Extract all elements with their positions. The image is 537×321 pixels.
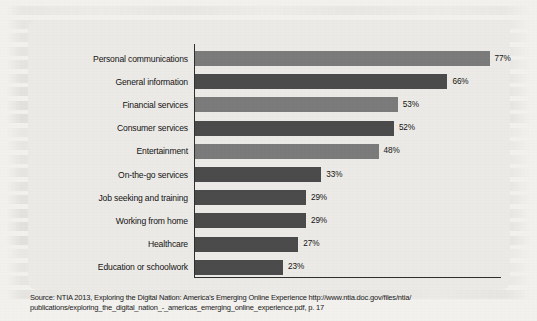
bar-chart-plot-area: Personal communications77%General inform… xyxy=(28,20,510,290)
figure-panel: Personal communications77%General inform… xyxy=(28,20,510,290)
bar-value-label: 23% xyxy=(288,262,304,272)
bar-category-label: General information xyxy=(28,77,188,87)
bleedthrough-text-line xyxy=(6,6,531,15)
bar xyxy=(195,144,379,159)
bar-category-label: Personal communications xyxy=(28,54,188,64)
bar-value-label: 77% xyxy=(495,54,511,64)
bar-row: Healthcare27% xyxy=(28,233,510,256)
bar-category-label: Working from home xyxy=(28,216,188,226)
bar-category-label: Entertainment xyxy=(28,146,188,156)
bar-row: Education or schoolwork23% xyxy=(28,256,510,279)
bar xyxy=(195,190,306,205)
source-citation-line-1: Source: NTIA 2013, Exploring the Digital… xyxy=(30,293,500,303)
bar xyxy=(195,121,394,136)
bar xyxy=(195,74,447,89)
bar-value-label: 27% xyxy=(303,239,319,249)
bar-row: Job seeking and training29% xyxy=(28,186,510,209)
bar xyxy=(195,213,306,228)
bar xyxy=(195,167,321,182)
bar-value-label: 29% xyxy=(311,193,327,203)
bar-row: Personal communications77% xyxy=(28,47,510,70)
bar xyxy=(195,97,398,112)
bar xyxy=(195,51,490,66)
bar-row: Financial services53% xyxy=(28,93,510,116)
bar-value-label: 29% xyxy=(311,216,327,226)
source-citation-line-2: publications/exploring_the_digital_natio… xyxy=(30,303,500,313)
source-citation: Source: NTIA 2013, Exploring the Digital… xyxy=(30,293,500,313)
bar-value-label: 53% xyxy=(403,100,419,110)
bar-row: On-the-go services33% xyxy=(28,163,510,186)
bar-value-label: 52% xyxy=(399,123,415,133)
bar-category-label: On-the-go services xyxy=(28,170,188,180)
bar xyxy=(195,237,298,252)
bar-row: Working from home29% xyxy=(28,209,510,232)
bar-category-label: Healthcare xyxy=(28,239,188,249)
bar-value-label: 66% xyxy=(452,77,468,87)
bar-category-label: Consumer services xyxy=(28,123,188,133)
bar-value-label: 48% xyxy=(384,146,400,156)
bar xyxy=(195,260,283,275)
bar-category-label: Education or schoolwork xyxy=(28,262,188,272)
bar-category-label: Job seeking and training xyxy=(28,193,188,203)
bar-row: Entertainment48% xyxy=(28,140,510,163)
bar-row: General information66% xyxy=(28,70,510,93)
bar-value-label: 33% xyxy=(326,170,342,180)
bar-category-label: Financial services xyxy=(28,100,188,110)
bar-row: Consumer services52% xyxy=(28,117,510,140)
